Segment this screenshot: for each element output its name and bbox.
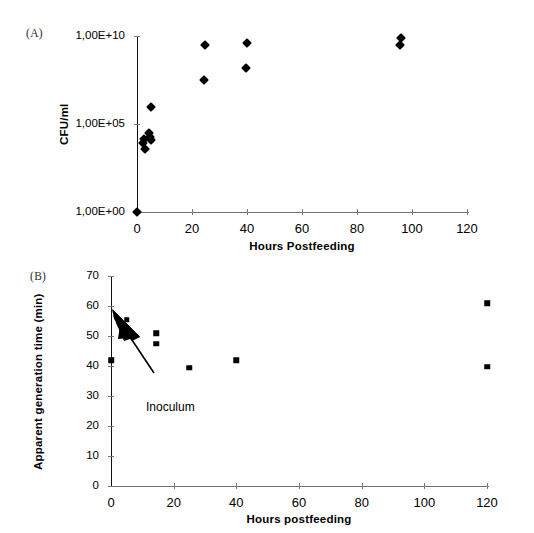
data-point	[242, 38, 252, 48]
y-axis-tick-label: 70	[9, 270, 99, 282]
x-axis-tick-label: 120	[442, 222, 492, 235]
data-point	[187, 365, 193, 371]
axis-title-x-a: Hours Postfeeding	[137, 240, 467, 252]
y-axis-tick	[108, 276, 114, 277]
panel-b: (B) 010203040506070020406080100120 Appar…	[0, 265, 534, 533]
x-axis-tick-label: 40	[222, 222, 272, 235]
data-point	[241, 63, 251, 73]
y-axis-tick-label: 40	[9, 360, 99, 372]
x-axis-tick-label: 40	[211, 496, 261, 509]
figure-container: (A) 1,00E+001,00E+051,00E+10020406080100…	[0, 0, 534, 533]
axis-title-x-b: Hours postfeeding	[111, 513, 487, 525]
x-axis-tick	[412, 209, 413, 215]
y-axis-tick	[108, 396, 114, 397]
x-axis-tick	[192, 209, 193, 215]
y-axis-tick-label: 20	[9, 420, 99, 432]
axis-title-y-b: Apparent generation time (min)	[32, 293, 44, 470]
x-axis-tick	[424, 483, 425, 489]
data-point	[146, 102, 156, 112]
x-axis-tick	[357, 209, 358, 215]
x-axis-tick	[299, 483, 300, 489]
x-axis-tick	[247, 209, 248, 215]
y-axis-tick-label: 50	[9, 330, 99, 342]
data-point	[200, 40, 210, 50]
y-axis-tick	[108, 426, 114, 427]
x-axis-line	[137, 212, 469, 213]
x-axis-tick-label: 60	[277, 222, 327, 235]
inoculum-label: Inoculum	[146, 400, 195, 414]
x-axis-tick-label: 20	[167, 222, 217, 235]
x-axis-tick	[362, 483, 363, 489]
x-axis-tick	[174, 483, 175, 489]
y-axis-tick-label: 60	[9, 300, 99, 312]
data-point	[484, 364, 490, 370]
x-axis-tick-label: 80	[332, 222, 382, 235]
x-axis-tick	[302, 209, 303, 215]
x-axis-tick-label: 80	[337, 496, 387, 509]
x-axis-tick	[487, 483, 488, 489]
x-axis-tick-label: 100	[399, 496, 449, 509]
data-point	[132, 207, 142, 217]
data-point	[199, 75, 209, 85]
y-axis-tick-label: 10	[9, 450, 99, 462]
y-axis-tick	[134, 124, 140, 125]
x-axis-tick-label: 0	[112, 222, 162, 235]
y-axis-tick-label: 1,00E+10	[35, 30, 125, 42]
y-axis-tick-label: 0	[9, 480, 99, 492]
y-axis-tick-label: 1,00E+00	[35, 206, 125, 218]
panel-a: (A) 1,00E+001,00E+051,00E+10020406080100…	[0, 0, 534, 265]
data-point	[234, 357, 240, 363]
y-axis-tick	[134, 36, 140, 37]
x-axis-tick-label: 60	[274, 496, 324, 509]
x-axis-tick-label: 120	[462, 496, 512, 509]
inoculum-arrow-icon	[106, 289, 176, 381]
y-axis-tick	[108, 486, 114, 487]
y-axis-tick-label: 30	[9, 390, 99, 402]
y-axis-tick	[108, 456, 114, 457]
x-axis-line	[111, 486, 489, 487]
x-axis-tick	[236, 483, 237, 489]
axis-title-y-a: CFU/ml	[58, 103, 70, 144]
x-axis-tick-label: 100	[387, 222, 437, 235]
y-axis-tick-label: 1,00E+05	[35, 118, 125, 130]
plot-area-a: 1,00E+001,00E+051,00E+10020406080100120	[137, 36, 467, 212]
data-point	[484, 300, 490, 306]
x-axis-tick-label: 20	[149, 496, 199, 509]
x-axis-tick	[467, 209, 468, 215]
x-axis-tick-label: 0	[86, 496, 136, 509]
